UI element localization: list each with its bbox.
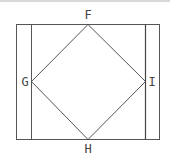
outer-rectangle: [17, 25, 160, 140]
label-H: H: [84, 142, 91, 156]
label-F: F: [84, 8, 91, 22]
label-G: G: [21, 75, 28, 89]
rhombus-FGHI: [32, 25, 146, 140]
label-I: I: [148, 75, 155, 89]
geometry-diagram: F G I H: [0, 0, 170, 166]
